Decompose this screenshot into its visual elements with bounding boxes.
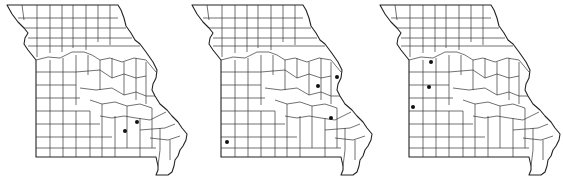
occurrence-dot <box>429 60 433 64</box>
missouri-county-map-2 <box>185 0 375 183</box>
missouri-county-map-1 <box>0 0 190 183</box>
missouri-map-svg <box>373 0 563 183</box>
occurrence-dot <box>329 116 333 120</box>
missouri-map-svg <box>185 0 375 183</box>
missouri-county-map-3 <box>373 0 563 183</box>
occurrence-dot <box>135 120 139 124</box>
missouri-map-svg <box>0 0 190 183</box>
occurrence-dot <box>411 105 415 109</box>
occurrence-dot <box>335 75 339 79</box>
occurrence-dot <box>316 84 320 88</box>
occurrence-dot <box>225 140 229 144</box>
occurrence-dot <box>427 85 431 89</box>
occurrence-dot <box>123 129 127 133</box>
